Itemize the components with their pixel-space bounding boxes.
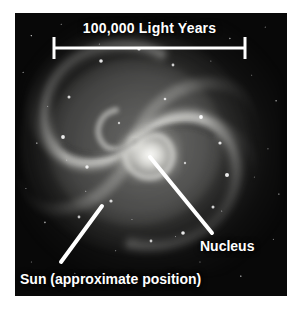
nucleus-label: Nucleus xyxy=(200,238,254,254)
galaxy-figure: 100,000 Light Years Nucleus Sun (approxi… xyxy=(0,0,299,314)
scale-bar xyxy=(54,37,245,59)
sun-pointer-line xyxy=(61,206,102,262)
annotation-lines-svg xyxy=(0,0,299,314)
annotation-overlay: 100,000 Light Years Nucleus Sun (approxi… xyxy=(0,0,299,314)
nucleus-pointer-line xyxy=(150,157,212,233)
sun-label: Sun (approximate position) xyxy=(20,271,201,287)
scale-bar-label: 100,000 Light Years xyxy=(0,20,299,36)
